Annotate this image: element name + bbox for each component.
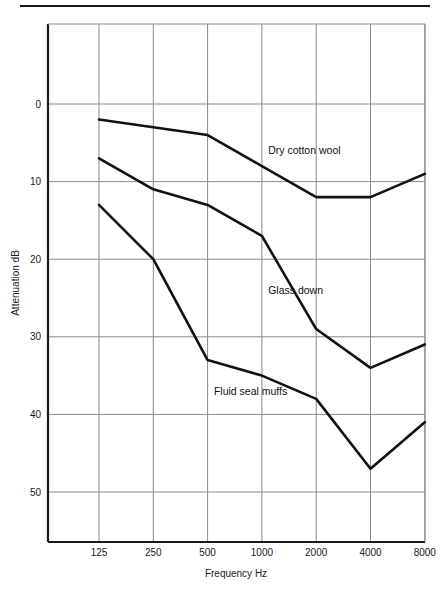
series-label: Glass down — [268, 284, 323, 296]
y-axis-title: Attenuation dB — [10, 250, 21, 316]
x-tick-label: 250 — [145, 547, 162, 558]
x-tick-label: 125 — [91, 547, 108, 558]
x-axis-tick-labels: 1252505001000200040008000 — [91, 547, 437, 558]
x-tick-label: 2000 — [305, 547, 328, 558]
x-tick-label: 500 — [199, 547, 216, 558]
y-tick-label: 50 — [30, 487, 42, 498]
x-tick-label: 1000 — [251, 547, 274, 558]
y-tick-label: 30 — [30, 331, 42, 342]
figure-container: 1252505001000200040008000 01020304050 Dr… — [0, 0, 446, 614]
x-tick-label: 4000 — [359, 547, 382, 558]
series-label: Dry cotton wool — [268, 144, 340, 156]
x-axis-title: Frequency Hz — [205, 568, 267, 579]
y-tick-label: 10 — [30, 176, 42, 187]
y-tick-label: 20 — [30, 254, 42, 265]
attenuation-frequency-chart: 1252505001000200040008000 01020304050 Dr… — [0, 0, 446, 614]
y-tick-label: 0 — [35, 99, 41, 110]
series-label: Fluid seal muffs — [214, 385, 287, 397]
y-axis-tick-labels: 01020304050 — [30, 99, 42, 498]
y-tick-label: 40 — [30, 409, 42, 420]
x-tick-label: 8000 — [414, 547, 437, 558]
